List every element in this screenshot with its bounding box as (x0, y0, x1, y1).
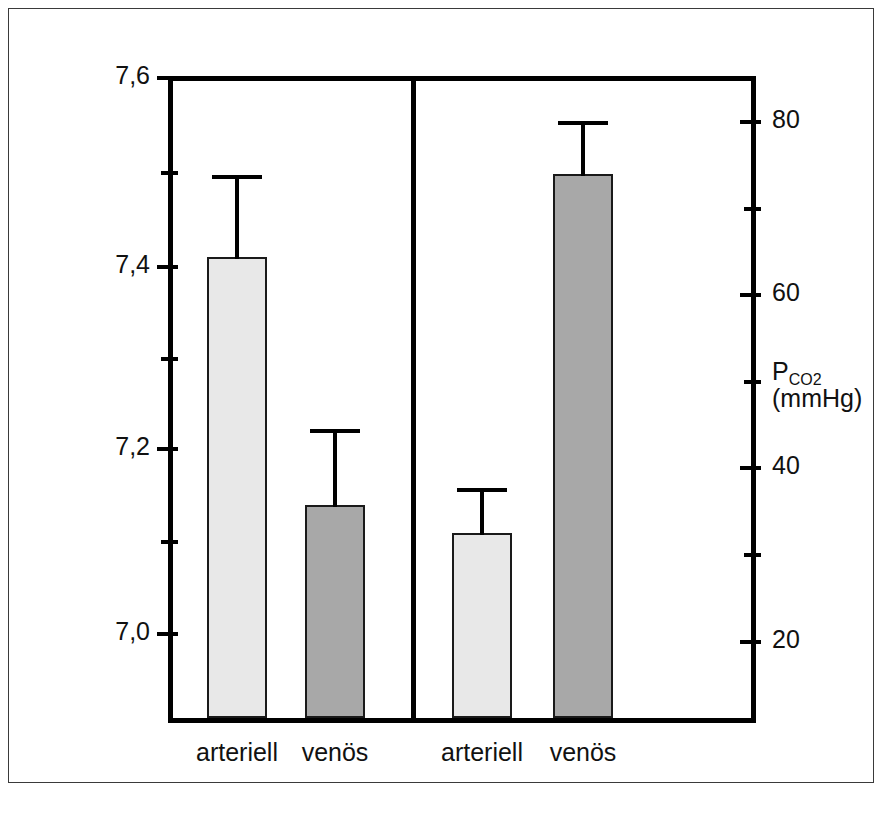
pco2-axis-title-sub: CO2 (789, 371, 822, 388)
bar-pco2-venoes (553, 174, 613, 718)
pco2-axis-title-sub-co: CO (789, 371, 813, 388)
bar-pco2-arteriell (452, 533, 512, 718)
pco2-axis-title: PCO2 (mmHg) (772, 358, 862, 412)
ph-tick-label-7-4: 7,4 (115, 252, 150, 277)
pco2-tick-50-minor (744, 380, 761, 384)
top-axis-line-left (168, 76, 413, 81)
pco2-tick-30-minor (744, 553, 761, 557)
ph-tick-7-0 (157, 632, 178, 636)
pco2-axis-title-unit: (mmHg) (772, 384, 862, 412)
pco2-axis-title-sub-2: 2 (813, 371, 822, 388)
right-axis-line (751, 76, 756, 723)
bar-ph-arteriell (207, 257, 267, 718)
errorbar-stem-pco2-venoes (581, 121, 585, 176)
plot-area: 7,6 7,4 7,2 7,0 80 60 40 20 PCO2 (mmHg) (168, 76, 756, 723)
pco2-tick-label-20: 20 (772, 627, 800, 652)
panel-divider-line (411, 76, 416, 723)
pco2-tick-80 (740, 120, 761, 124)
ph-tick-7-3-minor (161, 357, 178, 361)
pco2-tick-label-60: 60 (772, 280, 800, 305)
ph-tick-label-7-6: 7,6 (115, 63, 150, 88)
errorbar-cap-pco2-arteriell (457, 488, 507, 492)
bottom-axis-line (168, 718, 756, 723)
xtick-label-ph-venoes: venös (265, 740, 405, 765)
pco2-tick-label-80: 80 (772, 107, 800, 132)
xtick-label-pco2-venoes: venös (513, 740, 653, 765)
ph-tick-7-2 (157, 447, 178, 451)
pco2-axis-title-p: P (772, 357, 789, 385)
ph-tick-7-6 (157, 76, 178, 80)
errorbar-cap-pco2-venoes (558, 121, 608, 125)
ph-tick-label-7-0: 7,0 (115, 619, 150, 644)
errorbar-cap-ph-arteriell (212, 175, 262, 179)
pco2-tick-70-minor (744, 207, 761, 211)
errorbar-stem-ph-arteriell (235, 175, 239, 259)
errorbar-stem-ph-venoes (333, 429, 337, 507)
pco2-tick-60 (740, 293, 761, 297)
ph-tick-7-5-minor (161, 171, 178, 175)
ph-tick-label-7-2: 7,2 (115, 434, 150, 459)
bar-ph-venoes (305, 505, 365, 718)
pco2-tick-20 (740, 640, 761, 644)
pco2-tick-label-40: 40 (772, 453, 800, 478)
errorbar-cap-ph-venoes (310, 429, 360, 433)
figure-root: 7,6 7,4 7,2 7,0 80 60 40 20 PCO2 (mmHg) (0, 0, 891, 825)
top-axis-line-right (411, 76, 756, 81)
ph-tick-7-4 (157, 265, 178, 269)
errorbar-stem-pco2-arteriell (480, 488, 484, 535)
pco2-tick-40 (740, 466, 761, 470)
ph-tick-7-1-minor (161, 540, 178, 544)
